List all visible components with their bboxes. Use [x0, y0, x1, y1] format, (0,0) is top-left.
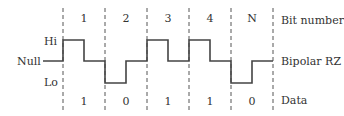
data-bit-1: 1: [81, 95, 88, 108]
data-label: Data: [281, 94, 308, 107]
data-bit-4: 1: [207, 95, 214, 108]
bit-number-label: Bit number: [281, 14, 344, 27]
bit-number-1: 1: [81, 12, 88, 25]
bit-number-4: 4: [207, 12, 214, 25]
bit-number-n: N: [247, 12, 257, 25]
hi-label: Hi: [44, 35, 58, 48]
bipolar-rz-diagram: Hi Null Lo 1 2 3 4 N 1 0 1 1 0 Bit numbe…: [0, 0, 344, 116]
data-bit-3: 1: [165, 95, 172, 108]
bipolar-rz-waveform: [43, 40, 273, 83]
data-bit-n: 0: [249, 95, 256, 108]
data-bit-2: 0: [123, 95, 130, 108]
lo-label: Lo: [44, 76, 58, 89]
null-label: Null: [17, 55, 41, 68]
waveform-canvas: Hi Null Lo 1 2 3 4 N 1 0 1 1 0 Bit numbe…: [0, 0, 344, 116]
bipolar-rz-label: Bipolar RZ: [281, 55, 341, 68]
bit-number-2: 2: [123, 12, 130, 25]
bit-number-3: 3: [165, 12, 172, 25]
